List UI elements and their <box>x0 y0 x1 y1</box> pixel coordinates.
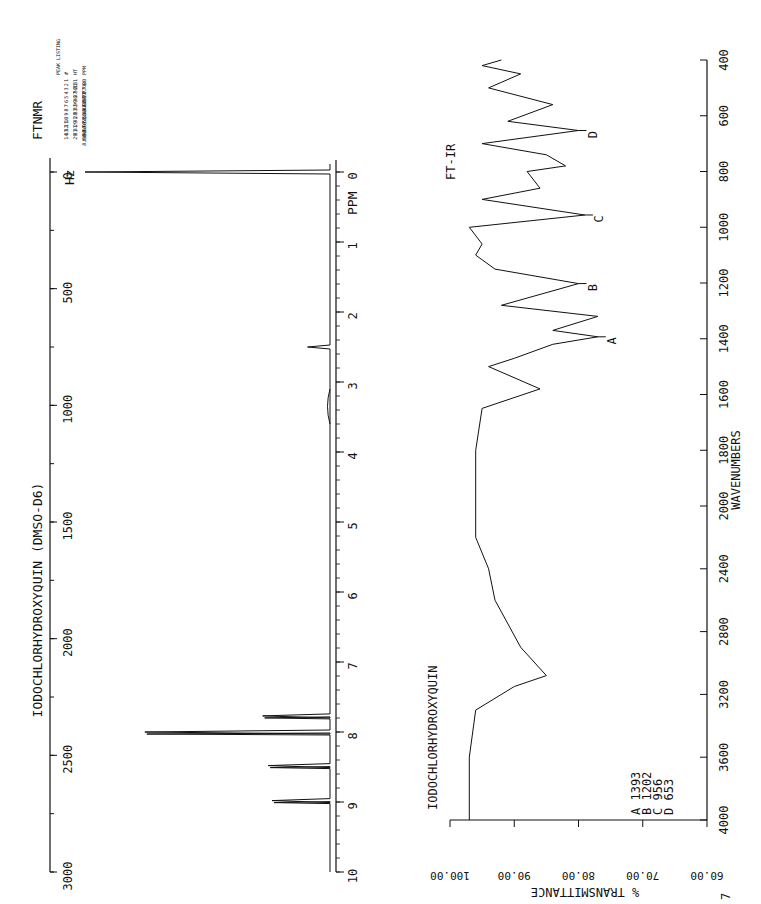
peak-annotation-label: C <box>592 215 606 222</box>
transmittance-tick-label: 60.00 <box>690 869 723 882</box>
ir-wavenumber-ticks: 4000360032002800240020001800160014001200… <box>700 49 731 834</box>
transmittance-tick-label: 70.00 <box>626 869 659 882</box>
peak-listing-cell: 8.99 <box>81 134 87 146</box>
wavenumber-tick-label: 1200 <box>717 269 731 298</box>
ppm-tick-label: 9 <box>346 802 360 809</box>
peak-listing-cell: 29 <box>72 134 78 140</box>
peak-listing-cell: 9 <box>63 113 69 116</box>
wavenumber-tick-label: 1400 <box>717 324 731 353</box>
peak-annotation-label: D <box>586 131 600 138</box>
ppm-tick-label: 8 <box>346 732 360 739</box>
peak-listing-cell: 3 <box>63 87 69 90</box>
peak-listing-header: # <box>63 72 69 75</box>
ir-title: FT-IR <box>444 143 458 180</box>
peak-listing-header: PPM <box>81 66 87 75</box>
peak-listing-cell: 4 <box>63 92 69 95</box>
transmittance-tick-label: 90.00 <box>498 869 531 882</box>
ir-compound-name: IODOCHLORHYDROXYQUIN <box>426 666 440 811</box>
ir-xlabel: WAVENUMBERS <box>729 430 743 509</box>
nmr-ppm-ticks: 012345678910 <box>328 172 361 883</box>
ppm-tick-label: 2 <box>346 312 360 319</box>
nmr-spectrum-trace <box>85 164 330 872</box>
peak-listing-cell: 2 <box>63 83 69 86</box>
hz-tick-label: 3000 <box>61 862 75 891</box>
ir-peak-legend: A 1393B 1202C 956D 653 <box>629 772 676 815</box>
wavenumber-tick-label: 4000 <box>717 806 731 835</box>
ppm-tick-label: 7 <box>346 662 360 669</box>
hz-tick-label: 1500 <box>61 512 75 541</box>
nmr-ppm-label: PPM <box>345 191 360 215</box>
nmr-hz-label: Hz <box>62 169 77 185</box>
peak-listing-cell: 6 <box>63 100 69 103</box>
ppm-tick-label: 0 <box>346 172 360 179</box>
peak-listing-cell: 1 <box>63 79 69 82</box>
nmr-hz-ticks: 050010001500200025003000 <box>50 172 75 890</box>
wavenumber-tick-label: 1000 <box>717 213 731 242</box>
peak-annotation-label: A <box>605 336 619 344</box>
wavenumber-tick-label: 600 <box>717 105 731 127</box>
hz-tick-label: 2000 <box>61 628 75 657</box>
wavenumber-tick-label: 2800 <box>717 617 731 646</box>
ppm-tick-label: 6 <box>346 592 360 599</box>
ir-ylabel: % TRANSMITTANCE <box>531 885 639 899</box>
ir-transmittance-ticks: 60.0070.0080.0090.00100.00 <box>430 820 723 882</box>
hz-tick-label: 1000 <box>61 395 75 424</box>
nmr-chart: 050010001500200025003000 012345678910 FT… <box>30 39 360 891</box>
peak-legend-entry: D 653 <box>662 779 676 815</box>
peak-listing-title: PEAK LISTING <box>55 39 61 75</box>
wavenumber-tick-label: 800 <box>717 161 731 183</box>
nmr-instrument-label: FTNMR <box>30 101 45 140</box>
page-number: 7 <box>719 893 733 900</box>
ppm-tick-label: 5 <box>346 522 360 529</box>
ir-spectrum-trace <box>469 60 598 820</box>
wavenumber-tick-label: 3200 <box>717 680 731 709</box>
nmr-title: IODOCHLORHYDROXYQUIN (DMSO-D6) <box>30 483 45 718</box>
spectra-page: 050010001500200025003000 012345678910 FT… <box>0 0 761 904</box>
ppm-tick-label: 4 <box>346 452 360 459</box>
ppm-tick-label: 3 <box>346 382 360 389</box>
wavenumber-tick-label: 1600 <box>717 380 731 409</box>
ppm-tick-label: 10 <box>346 869 360 883</box>
transmittance-tick-label: 80.00 <box>562 869 595 882</box>
peak-listing-cell: 14 <box>63 134 69 140</box>
hz-tick-label: 2500 <box>61 745 75 774</box>
peak-listing-cell: 7 <box>63 104 69 107</box>
ir-chart: 4000360032002800240020001800160014001200… <box>426 49 743 899</box>
wavenumber-tick-label: 2400 <box>717 554 731 583</box>
transmittance-tick-label: 100.00 <box>430 869 470 882</box>
ir-peak-annotations: ABCD <box>579 131 619 345</box>
peak-listing-cell: 8 <box>63 108 69 111</box>
hz-tick-label: 500 <box>61 282 75 304</box>
peak-listing-header: HT <box>72 69 78 75</box>
wavenumber-tick-label: 400 <box>717 49 731 71</box>
nmr-peak-listing: PEAK LISTING #HTPPM1131.002317.763367.77… <box>55 39 87 146</box>
peak-listing-cell: 5 <box>63 96 69 99</box>
ppm-tick-label: 1 <box>346 242 360 249</box>
wavenumber-tick-label: 3600 <box>717 743 731 772</box>
peak-annotation-label: B <box>586 284 600 291</box>
